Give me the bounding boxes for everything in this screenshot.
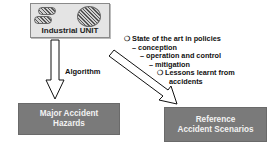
- major-accident-hazards-box: Major Accident Hazards: [18, 103, 120, 135]
- policies-list: ❍ State of the art in policies – concept…: [124, 35, 235, 87]
- dash-bullet-icon: –: [149, 60, 153, 69]
- hatched-oval-icon: [34, 16, 52, 24]
- algorithm-label: Algorithm: [65, 67, 100, 76]
- down-arrow: [46, 40, 64, 99]
- dash-bullet-icon: –: [140, 51, 144, 60]
- hatched-circle-icon: [77, 6, 101, 27]
- hatched-oval-icon: [38, 7, 56, 15]
- reference-accident-scenarios-box: Reference Accident Scenarios: [164, 107, 267, 142]
- circle-bullet-icon: ❍: [157, 68, 163, 77]
- list-item: accidents: [124, 78, 235, 87]
- circle-bullet-icon: ❍: [124, 34, 130, 43]
- dash-bullet-icon: –: [132, 43, 136, 52]
- industrial-unit-box: Industrial UNIT: [30, 3, 110, 38]
- industrial-unit-label: Industrial UNIT: [31, 26, 109, 35]
